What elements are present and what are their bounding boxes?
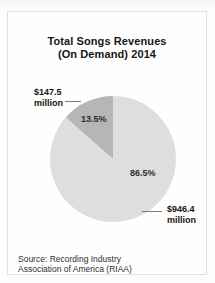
large-slice-percent-label: 86.5% bbox=[130, 169, 156, 178]
large-slice-unit: million bbox=[167, 215, 196, 226]
chart-title-line1: Total Songs Revenues bbox=[8, 35, 206, 48]
small-slice-value: $147.5 bbox=[34, 87, 63, 98]
large-slice-leader-line bbox=[142, 211, 162, 212]
small-slice-unit: million bbox=[34, 98, 63, 109]
pie-chart bbox=[49, 95, 177, 223]
source-attribution: Source: Recording Industry Association o… bbox=[18, 254, 132, 274]
chart-title: Total Songs Revenues (On Demand) 2014 bbox=[8, 35, 206, 61]
scan-edge bbox=[0, 0, 215, 8]
small-slice-leader-line bbox=[65, 101, 81, 102]
small-slice-callout: $147.5 million bbox=[34, 87, 63, 109]
source-line2: Association of America (RIAA) bbox=[18, 264, 132, 274]
chart-card: Total Songs Revenues (On Demand) 2014 13… bbox=[7, 11, 207, 275]
large-slice-value: $946.4 bbox=[167, 204, 196, 215]
screenshot-root: Total Songs Revenues (On Demand) 2014 13… bbox=[0, 0, 215, 283]
large-slice-callout: $946.4 million bbox=[167, 204, 196, 226]
source-line1: Source: Recording Industry bbox=[18, 254, 132, 264]
chart-title-line2: (On Demand) 2014 bbox=[8, 48, 206, 61]
small-slice-percent-label: 13.5% bbox=[81, 115, 107, 124]
